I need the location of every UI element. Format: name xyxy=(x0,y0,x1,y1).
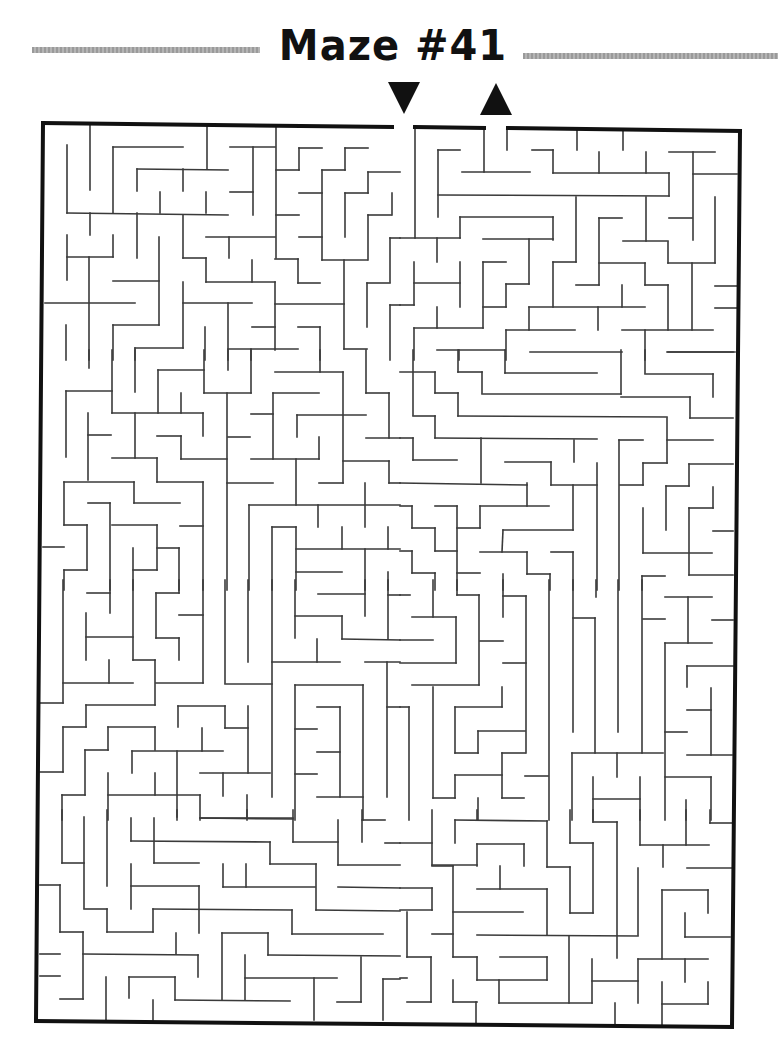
maze-board[interactable] xyxy=(0,0,779,1064)
maze-wall xyxy=(316,910,400,911)
maze-wall xyxy=(67,213,228,215)
maze-border-segment xyxy=(43,123,392,127)
maze-wall xyxy=(458,416,667,417)
maze-border-segment xyxy=(732,131,740,1027)
maze-wall xyxy=(268,955,400,956)
maze-wall xyxy=(131,841,270,842)
maze-wall xyxy=(502,530,503,552)
maze-wall xyxy=(83,954,198,955)
maze-border-segment xyxy=(415,127,484,128)
maze-wall xyxy=(175,1000,290,1001)
maze-wall xyxy=(338,887,400,888)
maze-wall xyxy=(477,935,638,936)
maze-wall xyxy=(342,639,400,640)
maze-wall xyxy=(435,438,597,439)
maze-wall xyxy=(400,483,527,485)
maze-wall xyxy=(153,909,292,910)
maze-wall xyxy=(438,195,669,196)
maze-border-segment xyxy=(36,1021,732,1027)
maze-walls xyxy=(40,125,737,1025)
maze-border-segment xyxy=(508,128,740,131)
maze-border-segment xyxy=(36,123,43,1021)
maze-wall xyxy=(455,820,547,821)
